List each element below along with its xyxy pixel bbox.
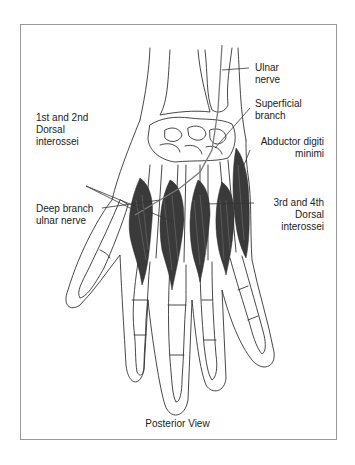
label-dorsal-interossei-1-2: 1st and 2nd Dorsal interossei bbox=[36, 112, 88, 148]
dorsal-interossei-muscles bbox=[129, 148, 249, 290]
radius-bone bbox=[160, 50, 210, 115]
label-superficial-branch: Superficial branch bbox=[255, 98, 302, 122]
label-ulnar-nerve: Ulnar nerve bbox=[255, 62, 280, 86]
label-dorsal-interossei-3-4: 3rd and 4th Dorsal interossei bbox=[258, 197, 324, 233]
ring-finger-bones bbox=[200, 262, 217, 380]
figure-caption: Posterior View bbox=[0, 418, 355, 430]
label-abductor-digiti-minimi: Abductor digiti minimi bbox=[252, 136, 324, 160]
little-finger-bones bbox=[230, 256, 265, 354]
label-deep-branch-ulnar-nerve: Deep branch ulnar nerve bbox=[36, 203, 93, 227]
